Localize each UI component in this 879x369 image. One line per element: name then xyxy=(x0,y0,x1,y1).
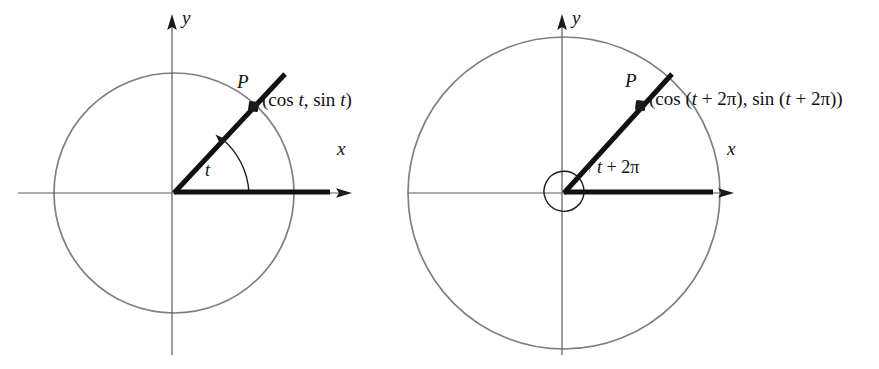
trig-periodicity-figure: y x P (cos t, sin t) t y x P (cos (t + 2… xyxy=(0,0,879,369)
x-axis-label-right: x xyxy=(727,139,735,158)
coord-open-right: (cos ( xyxy=(649,88,692,109)
coord-close-right: + 2π)) xyxy=(791,88,843,109)
angle-rest-right: + 2π xyxy=(602,157,639,177)
left-panel-group xyxy=(18,14,352,355)
diagram-canvas xyxy=(0,0,879,369)
point-p-marker-right xyxy=(635,100,646,111)
point-p-label-right: P xyxy=(625,71,637,90)
coordinate-label-left: (cos t, sin t) xyxy=(262,90,352,109)
angle-arc-right xyxy=(579,178,585,192)
coord-mid-left: , sin xyxy=(304,89,340,110)
y-axis-label-left: y xyxy=(182,8,190,27)
angle-label-right: t + 2π xyxy=(597,158,639,176)
point-p-marker-left xyxy=(248,101,259,112)
angle-arc-left xyxy=(221,138,249,193)
point-p-label-left: P xyxy=(237,72,249,91)
right-panel-group xyxy=(408,14,734,355)
coord-open-left: (cos xyxy=(262,89,298,110)
y-axis-label-right: y xyxy=(572,8,580,27)
coordinate-label-right: (cos (t + 2π), sin (t + 2π)) xyxy=(649,89,843,108)
x-axis-label-left: x xyxy=(337,139,345,158)
coord-plus1-right: + 2π), sin ( xyxy=(697,88,785,109)
angle-label-left: t xyxy=(205,161,210,179)
coord-close-left: ) xyxy=(345,89,351,110)
